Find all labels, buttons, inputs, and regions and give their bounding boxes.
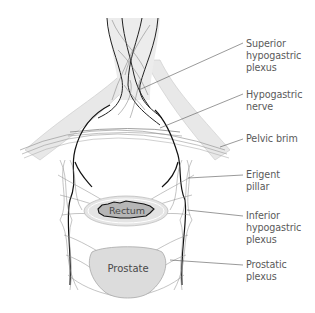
label-superior-hypogastric-plexus: Superior hypogastric plexus [246, 38, 301, 74]
label-pelvic-brim: Pelvic brim [246, 133, 298, 145]
label-prostatic-plexus: Prostatic plexus [246, 259, 287, 283]
label-hypogastric-nerve: Hypogastric nerve [246, 89, 302, 113]
label-inferior-hypogastric-plexus: Inferior hypogastric plexus [246, 210, 301, 246]
rectum-label: Rectum [104, 204, 150, 217]
label-erigent-pillar: Erigent pillar [246, 169, 280, 193]
prostate-label: Prostate [96, 262, 160, 276]
